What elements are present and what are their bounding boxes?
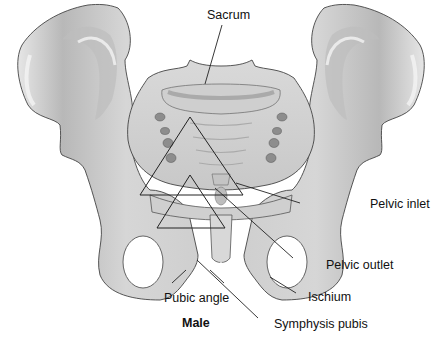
label-pelvic-outlet: Pelvic outlet (326, 259, 393, 272)
label-symphysis-pubis: Symphysis pubis (274, 318, 368, 331)
label-pubic-angle: Pubic angle (164, 292, 229, 305)
sacrum-bone (128, 60, 315, 205)
pelvis-diagram: Sacrum Pelvic inlet Pelvic outlet Ischiu… (0, 0, 442, 352)
label-sacrum: Sacrum (207, 9, 250, 22)
label-pelvic-inlet: Pelvic inlet (370, 198, 430, 211)
label-ischium: Ischium (308, 291, 351, 304)
figure-title-male: Male (182, 317, 210, 330)
